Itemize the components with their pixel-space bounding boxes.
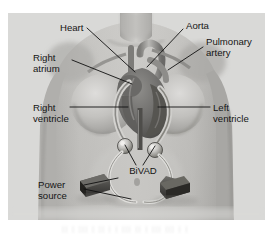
label-right-ventricle-line2: ventricle (33, 113, 69, 124)
pump-left-highlight (120, 141, 125, 146)
label-right-ventricle-line1: Right (33, 102, 56, 113)
navel (134, 178, 140, 186)
label-right-atrium-line1: Right (33, 52, 56, 63)
bivad-illustration-figure: Heart Aorta Pulmonary artery Right atriu… (0, 0, 273, 234)
label-heart: Heart (60, 22, 84, 33)
label-pulmonary-artery-line1: Pulmonary (206, 36, 252, 47)
cut-off-caption: || | ||| | || | | ||| || | ||| ||| | | (62, 224, 268, 233)
label-power-source-line1: Power (38, 179, 66, 190)
label-left-ventricle-line2: ventricle (213, 113, 249, 124)
illustration-canvas: Heart Aorta Pulmonary artery Right atriu… (0, 0, 273, 234)
neck-shadow (120, 13, 152, 38)
label-bivad: BiVAD (129, 165, 157, 176)
battery-right-shadow (154, 196, 198, 206)
label-left-ventricle-line1: Left (213, 102, 229, 113)
label-pulmonary-artery-line2: artery (206, 47, 231, 58)
panel-bottom-fade (8, 208, 265, 220)
pump-left (118, 139, 133, 154)
label-right-atrium-line2: atrium (33, 63, 60, 74)
label-power-source-line2: source (38, 190, 67, 201)
label-aorta: Aorta (186, 20, 210, 31)
